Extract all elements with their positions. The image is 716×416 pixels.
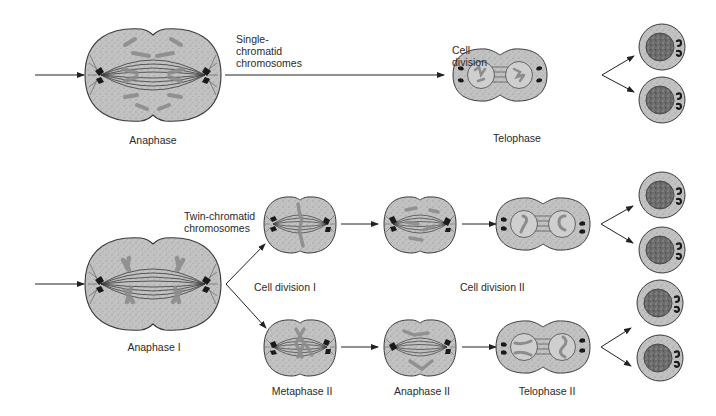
meiosis-daughter-cell-3: [637, 280, 683, 326]
lower-anaphase-2-cell: [384, 320, 456, 376]
label-cell-division-2: Cell division II: [460, 281, 525, 293]
label-cell-division: Cell division: [452, 44, 487, 68]
mitosis-daughter-cell-2: [639, 77, 685, 123]
arrow-telophase-to-daughter-1: [602, 56, 634, 75]
mitosis-daughter-cell-1: [639, 24, 685, 70]
label-anaphase-2: Anaphase II: [394, 385, 450, 397]
label-anaphase: Anaphase: [129, 134, 176, 146]
arrow-telophase-to-daughter-2: [602, 75, 634, 92]
mitosis-row: [35, 24, 685, 123]
diagram-canvas: [0, 0, 716, 416]
upper-metaphase-2-cell: [264, 197, 336, 253]
arrow-upper-telo-to-daughter-2: [601, 224, 633, 243]
meiosis-anaphase-1-cell: [85, 238, 221, 330]
cell-division-diagram: Anaphase Single- chromatid chromosomes C…: [0, 0, 716, 416]
label-anaphase-1: Anaphase I: [127, 341, 180, 353]
lower-telophase-2-cell: [496, 321, 590, 373]
upper-telophase-2-cell: [496, 198, 590, 250]
arrow-upper-telo-to-daughter-1: [601, 206, 633, 224]
label-twin-chromatid-chromosomes: Twin-chromatid chromosomes: [184, 210, 255, 234]
mitosis-anaphase-cell: [85, 29, 221, 121]
label-telophase-2: Telophase II: [519, 385, 576, 397]
meiosis-daughter-cell-1: [639, 172, 685, 218]
meiosis-daughter-cell-4: [637, 335, 683, 381]
label-telophase: Telophase: [493, 132, 541, 144]
upper-anaphase-2-cell: [384, 197, 456, 253]
lower-metaphase-2-cell: [264, 320, 336, 376]
arrow-lower-telo-to-daughter-3: [601, 328, 631, 347]
label-cell-division-1: Cell division I: [254, 281, 316, 293]
arrow-lower-telo-to-daughter-4: [601, 347, 631, 366]
arrow-anaphase1-to-upper: [226, 244, 265, 284]
meiosis-daughter-cell-2: [639, 227, 685, 273]
label-metaphase-2: Metaphase II: [272, 385, 333, 397]
label-single-chromatid-chromosomes: Single- chromatid chromosomes: [236, 33, 302, 69]
